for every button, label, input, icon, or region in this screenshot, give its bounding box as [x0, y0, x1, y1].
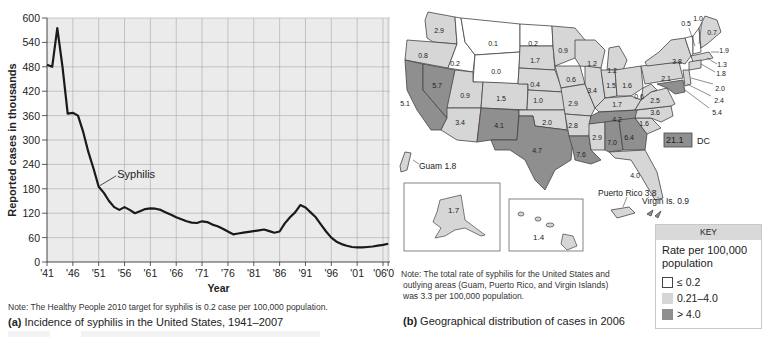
panel-b-caption-label: (b)	[403, 315, 417, 327]
svg-text:2.9: 2.9	[568, 100, 578, 107]
state-nj	[683, 70, 691, 86]
y-tick-label: 600	[22, 12, 40, 24]
panel-a-caption: (a) Incidence of syphilis in the United …	[8, 316, 283, 328]
y-tick-label: 60	[28, 232, 40, 244]
x-tick-label: '07	[386, 267, 395, 279]
y-tick-label: 360	[22, 110, 40, 122]
map-legend-key: KEY Rate per 100,000 population ≤ 0.2 0.…	[655, 224, 762, 329]
y-tick-label: 180	[22, 183, 40, 195]
panel-a-caption-text: Incidence of syphilis in the United Stat…	[21, 316, 283, 328]
panel-b-note-line2: outlying areas (Guam, Puerto Rico, and V…	[401, 280, 610, 291]
svg-text:3.4: 3.4	[587, 87, 597, 94]
key-bin3-label: > 4.0	[677, 308, 701, 320]
syphilis-line-chart: 060120180240300360420480540600'41'46'51'…	[0, 0, 395, 300]
svg-text:0.2: 0.2	[528, 40, 538, 47]
panel-b-caption-text: Geographical distribution of cases in 20…	[417, 315, 625, 327]
svg-text:0.9: 0.9	[460, 92, 470, 99]
y-tick-label: 300	[22, 134, 40, 146]
panel-b-caption: (b) Geographical distribution of cases i…	[403, 315, 625, 327]
svg-text:6.4: 6.4	[624, 134, 634, 141]
virgin-islands-label: Virgin Is. 0.9	[642, 196, 689, 206]
puerto-rico-shape	[611, 207, 635, 218]
svg-text:4.0: 4.0	[630, 172, 640, 179]
svg-text:0.7: 0.7	[707, 29, 717, 36]
y-tick-label: 240	[22, 158, 40, 170]
dc-value: 21.1	[666, 135, 684, 145]
x-tick-label: '81	[247, 267, 261, 279]
svg-text:1.7: 1.7	[530, 57, 540, 64]
svg-text:5.1: 5.1	[400, 100, 410, 107]
key-bin2-label: 0.21–4.0	[677, 292, 718, 304]
x-tick-label: '01	[350, 267, 364, 279]
y-tick-label: 120	[22, 207, 40, 219]
svg-text:1.0: 1.0	[533, 97, 543, 104]
svg-text:4.1: 4.1	[494, 122, 504, 129]
svg-text:2.0: 2.0	[542, 119, 552, 126]
key-title-line2: population	[662, 257, 755, 270]
key-row-high: > 4.0	[656, 306, 761, 322]
state-ct	[689, 60, 701, 70]
svg-text:2.9: 2.9	[434, 27, 444, 34]
svg-text:0.0: 0.0	[491, 68, 501, 75]
alaska-value: 1.7	[448, 206, 459, 215]
svg-text:1.3: 1.3	[717, 61, 727, 68]
svg-text:2.1: 2.1	[661, 75, 671, 82]
x-tick-label: '86	[273, 267, 287, 279]
panel-b-note-line3: was 3.3 per 100,000 population.	[401, 291, 610, 302]
x-tick-label: '46	[66, 267, 80, 279]
svg-text:1.6: 1.6	[639, 120, 649, 127]
svg-text:2.5: 2.5	[650, 97, 660, 104]
y-axis-label: Reported cases in thousands	[6, 63, 18, 216]
panel-a-caption-label: (a)	[8, 316, 21, 328]
svg-text:0.6: 0.6	[566, 76, 576, 83]
svg-text:7.0: 7.0	[607, 139, 617, 146]
svg-text:4.7: 4.7	[532, 147, 542, 154]
svg-text:2.4: 2.4	[714, 97, 724, 104]
x-tick-label: '06	[373, 267, 387, 279]
svg-text:1.2: 1.2	[587, 60, 597, 67]
virgin-islands-shape	[647, 210, 661, 218]
svg-text:1.0: 1.0	[693, 15, 703, 22]
svg-text:1.2: 1.2	[607, 67, 617, 74]
svg-text:5.4: 5.4	[712, 109, 722, 116]
key-header: KEY	[656, 225, 761, 240]
key-bin1-label: ≤ 0.2	[677, 276, 700, 288]
series-annotation: Syphilis	[117, 168, 155, 180]
svg-text:2.9: 2.9	[592, 134, 602, 141]
key-title: Rate per 100,000 population	[656, 240, 761, 270]
hawaii-value: 1.4	[533, 233, 544, 242]
svg-text:2.0: 2.0	[715, 85, 725, 92]
svg-text:0.2: 0.2	[450, 60, 460, 67]
svg-text:1.8: 1.8	[716, 70, 726, 77]
key-row-mid: 0.21–4.0	[656, 290, 761, 306]
svg-text:0.5: 0.5	[681, 20, 691, 27]
svg-text:0.1: 0.1	[488, 40, 498, 47]
svg-text:1.7: 1.7	[612, 101, 622, 108]
x-tick-label: '66	[169, 267, 183, 279]
svg-text:1.5: 1.5	[496, 95, 506, 102]
svg-text:0.9: 0.9	[558, 47, 568, 54]
bleed-through-text	[8, 331, 528, 337]
x-tick-label: '61	[144, 267, 158, 279]
svg-text:2.8: 2.8	[568, 122, 578, 129]
svg-text:5.7: 5.7	[432, 82, 442, 89]
svg-text:1.6: 1.6	[622, 82, 632, 89]
y-tick-label: 480	[22, 61, 40, 73]
swatch-mid-icon	[662, 293, 673, 304]
x-tick-label: '91	[299, 267, 313, 279]
state-ny	[645, 38, 691, 66]
x-tick-label: '76	[221, 267, 235, 279]
svg-text:7.6: 7.6	[576, 151, 586, 158]
swatch-high-icon	[662, 309, 673, 320]
dc-label: DC	[697, 136, 710, 146]
svg-text:4.2: 4.2	[612, 116, 622, 123]
svg-text:1.9: 1.9	[719, 47, 729, 54]
x-tick-label: '56	[118, 267, 132, 279]
guam-label: Guam 1.8	[419, 161, 456, 171]
guam-shape	[400, 152, 411, 172]
svg-text:0.8: 0.8	[418, 52, 428, 59]
x-tick-label: '41	[40, 267, 54, 279]
svg-text:0.4: 0.4	[530, 81, 540, 88]
key-title-line1: Rate per 100,000	[662, 244, 755, 257]
x-axis-label: Year	[207, 282, 229, 294]
